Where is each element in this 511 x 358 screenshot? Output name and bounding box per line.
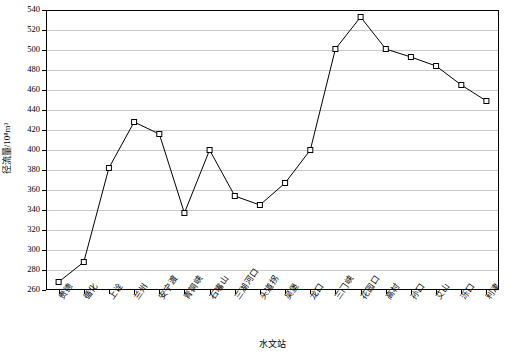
runoff-series — [0, 0, 511, 358]
data-point-marker — [333, 47, 338, 52]
data-point-marker — [132, 120, 137, 125]
data-point-marker — [383, 47, 388, 52]
y-axis-title: 径流量/10⁸m³ — [3, 114, 12, 184]
data-point-marker — [459, 83, 464, 88]
data-point-marker — [157, 132, 162, 137]
data-point-marker — [484, 99, 489, 104]
series-line — [59, 17, 487, 282]
data-point-marker — [232, 194, 237, 199]
data-point-marker — [283, 181, 288, 186]
data-point-marker — [257, 203, 262, 208]
runoff-line-chart: 2602803003203403603804004204404604805005… — [0, 0, 511, 358]
data-point-marker — [358, 15, 363, 20]
data-point-marker — [56, 280, 61, 285]
data-point-marker — [408, 55, 413, 60]
data-point-marker — [182, 211, 187, 216]
data-point-marker — [207, 148, 212, 153]
data-point-marker — [106, 166, 111, 171]
data-point-marker — [434, 64, 439, 69]
data-point-marker — [308, 148, 313, 153]
data-point-marker — [81, 260, 86, 265]
x-axis-title: 水文站 — [233, 340, 313, 349]
